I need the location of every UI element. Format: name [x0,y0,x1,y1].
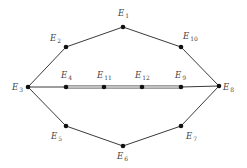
label-subscript: 8 [230,86,234,93]
node-label-e11: E11 [96,70,112,81]
node-label-e3: E3 [11,82,23,93]
edge-e8-e10 [181,47,219,86]
node-e5 [64,124,69,129]
edge-e2-e3 [28,47,66,87]
edge-e10-e1 [123,27,181,47]
label-base: E [49,33,57,43]
label-base: E [96,70,104,80]
node-label-e6: E6 [116,151,128,162]
node-e1 [121,25,126,30]
label-base: E [60,70,68,80]
node-label-e12: E12 [134,70,150,81]
node-label-e5: E5 [50,131,62,142]
edges-layer [28,27,219,146]
label-subscript: 5 [58,135,62,142]
label-base: E [222,82,230,92]
node-e6 [121,144,126,149]
label-subscript: 2 [57,37,61,44]
node-label-e10: E10 [182,31,198,42]
label-subscript: 7 [193,135,197,142]
edge-e6-e7 [123,126,181,146]
node-e7 [179,124,184,129]
label-subscript: 3 [19,86,23,93]
graph-diagram: E1E2E3E4E5E6E7E8E9E10E11E12 [0,0,247,168]
node-e2 [64,45,69,50]
label-base: E [185,131,193,141]
node-label-e7: E7 [185,131,197,142]
node-label-e4: E4 [60,70,72,81]
node-e8 [217,84,222,89]
edge-e9-e8 [181,86,219,87]
label-subscript: 4 [68,74,72,81]
label-base: E [134,70,142,80]
node-e11 [102,85,107,90]
edge-e3-e5 [28,87,66,126]
node-label-e2: E2 [49,33,61,44]
label-base: E [116,151,124,161]
node-label-e9: E9 [174,70,186,81]
label-base: E [50,131,58,141]
edge-e1-e2 [66,27,123,47]
node-e4 [64,85,69,90]
label-subscript: 10 [190,35,198,42]
label-subscript: 11 [104,74,112,81]
node-e10 [179,45,184,50]
node-e3 [26,85,31,90]
edge-e7-e8 [181,86,219,126]
node-label-e8: E8 [222,82,234,93]
label-subscript: 1 [125,12,129,19]
label-base: E [174,70,182,80]
node-e12 [140,85,145,90]
label-subscript: 12 [142,74,150,81]
label-subscript: 9 [182,74,186,81]
label-subscript: 6 [124,155,128,162]
label-base: E [11,82,19,92]
node-e9 [179,85,184,90]
labels-layer: E1E2E3E4E5E6E7E8E9E10E11E12 [11,8,234,162]
label-base: E [117,8,125,18]
label-base: E [182,31,190,41]
edge-e5-e6 [66,126,123,146]
node-label-e1: E1 [117,8,129,19]
